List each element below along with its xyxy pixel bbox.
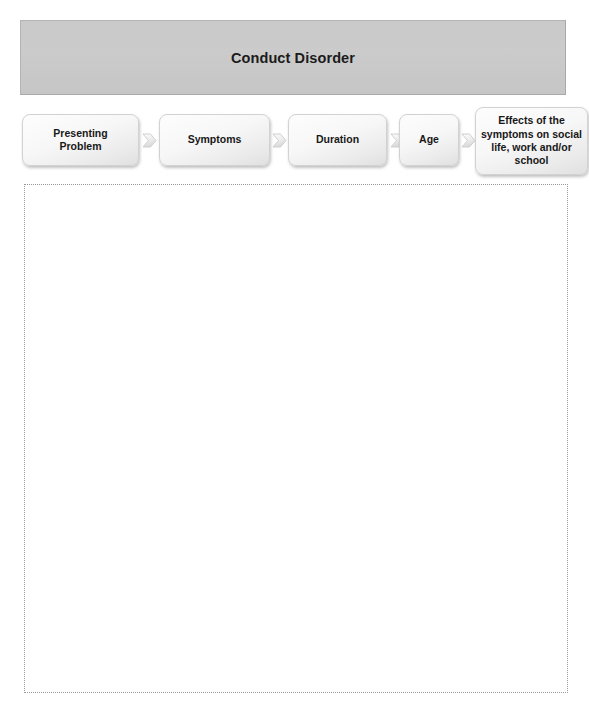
notes-content-area[interactable]	[24, 184, 568, 693]
process-flow-row: Presenting Problem Symptoms Duration	[20, 104, 568, 176]
flow-node-label: Effects of the symptoms on social life, …	[481, 114, 582, 168]
flow-node-age[interactable]: Age	[399, 114, 459, 166]
diagram-title-banner: Conduct Disorder	[20, 20, 566, 95]
chevron-right-icon	[141, 132, 158, 149]
flow-node-symptoms[interactable]: Symptoms	[159, 114, 270, 166]
flow-node-label: Symptoms	[188, 133, 242, 146]
flow-node-label: Duration	[316, 133, 359, 146]
chevron-right-icon	[271, 132, 288, 149]
page-title: Conduct Disorder	[231, 50, 355, 66]
flow-node-label: Age	[419, 133, 439, 146]
flow-node-label: Presenting Problem	[53, 127, 107, 154]
flow-node-duration[interactable]: Duration	[288, 114, 387, 166]
flow-node-effects-of-symptoms[interactable]: Effects of the symptoms on social life, …	[475, 107, 588, 175]
flow-node-presenting-problem[interactable]: Presenting Problem	[22, 114, 139, 166]
